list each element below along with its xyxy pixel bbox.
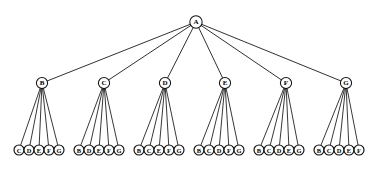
leaf-node-label: B [137,147,142,154]
edge-c-to-d [90,88,103,145]
leaf-node-label: B [197,147,202,154]
root-edge-group [47,24,341,81]
edge-c-to-e [99,89,103,145]
leaf-node-label: E [37,147,41,154]
level2-node-group: BCDEFG [36,77,351,88]
leaf-node-label: E [157,147,161,154]
leaf-node-label: C [207,147,212,154]
leaf-node-label: G [297,147,302,154]
leaf-node-label: B [317,147,322,154]
node-label-d: D [162,79,167,87]
edge-root-to-f [201,25,281,79]
root-node-group: A [190,16,202,28]
node-label-b: B [40,79,45,87]
leaf-node-label: E [287,147,291,154]
node-label-f: F [284,79,288,87]
leaf-node-label: D [277,147,282,154]
leaf-node-label: B [77,147,82,154]
tree-diagram-canvas: CDEFGBDEFGBCEFGBCDFGBCDEGBCDEF BCDEFG A [0,0,387,170]
leaf-node-label: F [167,147,171,154]
leaf-edge-group [21,88,358,145]
edge-b-to-c [21,88,41,145]
leaf-node-label: F [357,147,361,154]
leaf-node-label: G [237,147,242,154]
edge-root-to-d [168,28,194,78]
leaf-node-label: F [47,147,51,154]
node-label-g: G [343,79,349,87]
leaf-node-label: E [97,147,101,154]
leaf-node-label: G [117,147,122,154]
leaf-node-label: D [337,147,342,154]
edge-root-to-g [202,24,341,81]
leaf-node-label: G [177,147,182,154]
tree-diagram: CDEFGBDEFGBCEFGBCDFGBCDEGBCDEF BCDEFG A [0,0,387,170]
leaf-node-label: F [107,147,111,154]
edge-c-to-f [104,89,108,145]
leaf-node-label: G [57,147,62,154]
edge-root-to-c [109,25,191,79]
leaf-node-group: CDEFGBDEFGBCEFGBCDFGBCDEGBCDEF [14,145,364,155]
edge-c-to-b [81,88,102,145]
node-label-root-a: A [193,18,198,26]
leaf-node-label: C [147,147,152,154]
leaf-node-label: D [217,147,222,154]
edge-c-to-g [105,88,118,145]
leaf-node-label: C [267,147,272,154]
leaf-node-label: F [227,147,231,154]
edge-root-to-e [199,28,223,78]
leaf-node-label: D [27,147,32,154]
leaf-node-label: B [257,147,262,154]
leaf-node-label: D [87,147,92,154]
leaf-node-label: E [347,147,351,154]
leaf-node-label: C [17,147,22,154]
node-label-e: E [223,79,228,87]
node-label-c: C [101,79,106,87]
leaf-node-label: C [327,147,332,154]
edge-root-to-b [47,24,190,81]
